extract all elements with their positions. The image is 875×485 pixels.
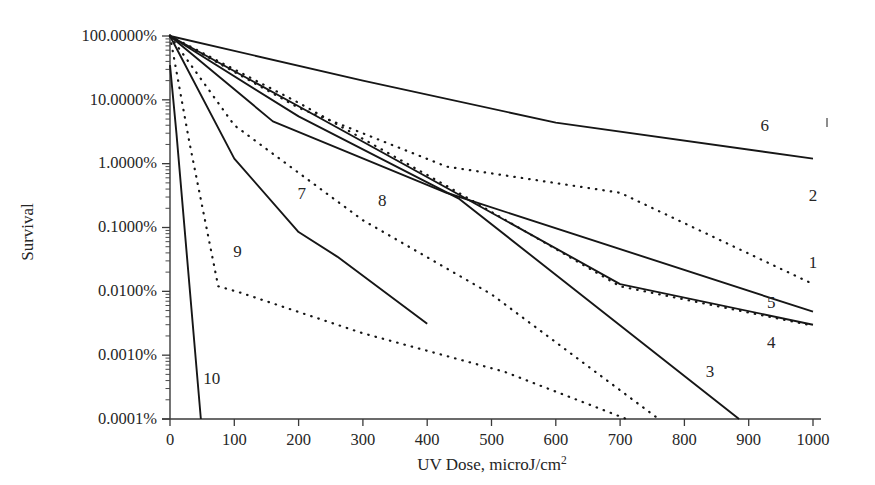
- y-axis-title: Survival: [18, 203, 37, 261]
- y-tick-label: 100.0000%: [81, 26, 157, 45]
- x-axis-title: UV Dose, microJ/cm2: [417, 454, 567, 474]
- uv-dose-survival-chart: 100.0000%10.0000%1.0000%0.1000%0.0100%0.…: [0, 0, 875, 485]
- x-tick-label: 200: [286, 430, 311, 449]
- x-tick-label: 500: [479, 430, 504, 449]
- x-tick-label: 100: [222, 430, 247, 449]
- series-label-5: 5: [767, 293, 776, 312]
- series-label-10: 10: [203, 369, 220, 388]
- y-tick-label: 0.0100%: [98, 281, 157, 300]
- series-line-2: [170, 36, 813, 284]
- series-label-2: 2: [809, 186, 818, 205]
- x-axis-title-superscript: 2: [561, 454, 567, 466]
- series-layer: [170, 36, 813, 419]
- chart-canvas: 100.0000%10.0000%1.0000%0.1000%0.0100%0.…: [0, 0, 875, 485]
- series-label-3: 3: [706, 362, 715, 381]
- series-label-8: 8: [378, 191, 387, 210]
- x-axis-title-base: UV Dose, microJ/cm: [417, 455, 561, 474]
- x-tick-label: 700: [608, 430, 633, 449]
- y-tick-labels: 100.0000%10.0000%1.0000%0.1000%0.0100%0.…: [81, 26, 157, 428]
- x-tick-label: 900: [736, 430, 761, 449]
- series-labels: 12345678910: [203, 116, 817, 388]
- series-line-5: [170, 36, 813, 325]
- series-label-9: 9: [233, 242, 242, 261]
- x-tick-label: 400: [415, 430, 440, 449]
- x-tick-labels: 01002003004005006007008009001000: [166, 430, 830, 449]
- series-label-7: 7: [298, 184, 307, 203]
- series-line-7: [170, 36, 427, 324]
- y-tick-label: 0.1000%: [98, 217, 157, 236]
- series-line-3: [170, 36, 739, 419]
- scan-artifact-speck: [826, 118, 828, 127]
- x-tick-label: 300: [351, 430, 376, 449]
- series-line-8: [170, 36, 659, 419]
- series-label-6: 6: [761, 116, 770, 135]
- series-line-4: [170, 36, 813, 326]
- x-tick-label: 0: [166, 430, 174, 449]
- series-label-1: 1: [809, 253, 818, 272]
- x-tick-label: 800: [672, 430, 697, 449]
- x-tick-label: 600: [543, 430, 568, 449]
- series-label-4: 4: [767, 333, 776, 352]
- x-tick-label: 1000: [797, 430, 830, 449]
- y-tick-label: 10.0000%: [90, 90, 158, 109]
- y-tick-label: 1.0000%: [98, 153, 157, 172]
- y-tick-label: 0.0001%: [98, 409, 157, 428]
- y-tick-label: 0.0010%: [98, 345, 157, 364]
